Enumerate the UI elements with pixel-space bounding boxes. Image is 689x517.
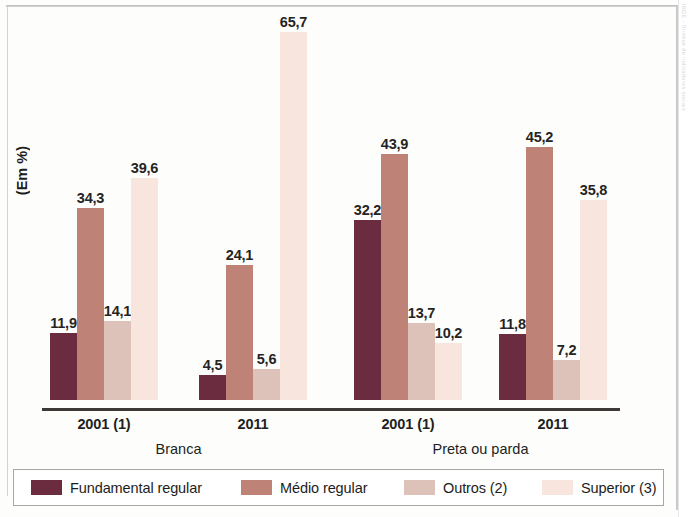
x-category-label: Branca <box>156 441 202 457</box>
bar-value-label: 24,1 <box>226 247 253 263</box>
x-tick-label: 2001 (1) <box>381 416 434 432</box>
bar[interactable]: 39,6 <box>131 178 158 400</box>
bar-slot: 65,7 <box>280 8 307 400</box>
scan-margin-artifact: IBGE - Síntese de indicadores sociais <box>679 4 688 116</box>
bar-value-label: 34,3 <box>77 190 104 206</box>
x-axis-line <box>42 408 620 411</box>
bar-slot: 35,8 <box>580 8 607 400</box>
x-tick-label: 2011 <box>237 416 268 432</box>
bar-slot: 34,3 <box>77 8 104 400</box>
legend-label: Fundamental regular <box>70 480 202 496</box>
legend-item[interactable]: Superior (3) <box>542 480 656 496</box>
x-tick-label: 2011 <box>537 416 568 432</box>
bar-value-label: 14,1 <box>104 303 131 319</box>
bar[interactable]: 43,9 <box>381 154 408 400</box>
bar-group: 4,524,15,665,7 <box>199 8 307 400</box>
bar-value-label: 45,2 <box>526 129 553 145</box>
bar-value-label: 13,7 <box>408 305 435 321</box>
x-axis-labels: 2001 (1)20112001 (1)2011BrancaPreta ou p… <box>0 416 676 476</box>
x-tick-label: 2001 (1) <box>77 416 130 432</box>
bar[interactable]: 5,6 <box>253 369 280 400</box>
bar[interactable]: 10,2 <box>435 343 462 400</box>
bar-slot: 5,6 <box>253 8 280 400</box>
bar[interactable]: 45,2 <box>526 147 553 400</box>
bar-value-label: 32,2 <box>354 202 381 218</box>
plot-area: (Em %) 11,934,314,139,64,524,15,665,732,… <box>0 8 676 408</box>
bar-slot: 13,7 <box>408 8 435 400</box>
legend-label: Superior (3) <box>581 480 656 496</box>
bar[interactable]: 32,2 <box>354 220 381 400</box>
bar[interactable]: 14,1 <box>104 321 131 400</box>
bar-slot: 7,2 <box>553 8 580 400</box>
bar-value-label: 5,6 <box>257 351 277 367</box>
legend-item[interactable]: Fundamental regular <box>31 480 202 496</box>
x-category-label: Preta ou parda <box>433 441 529 457</box>
bar[interactable]: 65,7 <box>280 32 307 400</box>
y-axis-title: (Em %) <box>14 146 38 195</box>
legend-swatch <box>404 480 435 495</box>
bar-slot: 4,5 <box>199 8 226 400</box>
bar-group: 32,243,913,710,2 <box>354 8 462 400</box>
bar-slot: 32,2 <box>354 8 381 400</box>
page-frame-top <box>6 5 678 7</box>
bar-slot: 45,2 <box>526 8 553 400</box>
bar-value-label: 39,6 <box>131 160 158 176</box>
bar[interactable]: 11,9 <box>50 333 77 400</box>
bar-group: 11,934,314,139,6 <box>50 8 158 400</box>
bar-groups-container: 11,934,314,139,64,524,15,665,732,243,913… <box>44 8 622 400</box>
bar[interactable]: 11,8 <box>499 334 526 400</box>
bar-value-label: 11,8 <box>499 316 526 332</box>
bar-value-label: 10,2 <box>435 325 462 341</box>
bar[interactable]: 4,5 <box>199 375 226 400</box>
bar-value-label: 4,5 <box>203 357 223 373</box>
bar[interactable]: 24,1 <box>226 265 253 400</box>
bar-slot: 11,8 <box>499 8 526 400</box>
bar[interactable]: 13,7 <box>408 323 435 400</box>
bar-slot: 11,9 <box>50 8 77 400</box>
legend-swatch <box>31 480 62 495</box>
bar-value-label: 11,9 <box>50 315 77 331</box>
bar[interactable]: 7,2 <box>553 360 580 400</box>
legend-swatch <box>241 480 272 495</box>
bar-group: 11,845,27,235,8 <box>499 8 607 400</box>
bar-slot: 39,6 <box>131 8 158 400</box>
bar-slot: 24,1 <box>226 8 253 400</box>
bar-value-label: 65,7 <box>280 14 307 30</box>
bar-slot: 14,1 <box>104 8 131 400</box>
bar-slot: 10,2 <box>435 8 462 400</box>
chart-legend: Fundamental regularMédio regularOutros (… <box>13 469 664 506</box>
bar[interactable]: 35,8 <box>580 200 607 400</box>
legend-item[interactable]: Outros (2) <box>404 480 507 496</box>
bar-value-label: 7,2 <box>557 342 577 358</box>
bar-slot: 43,9 <box>381 8 408 400</box>
legend-swatch <box>542 480 573 495</box>
legend-item[interactable]: Médio regular <box>241 480 367 496</box>
bar[interactable]: 34,3 <box>77 208 104 400</box>
chart-page: (Em %) 11,934,314,139,64,524,15,665,732,… <box>0 0 689 517</box>
legend-label: Médio regular <box>280 480 367 496</box>
bar-value-label: 43,9 <box>381 136 408 152</box>
legend-label: Outros (2) <box>443 480 507 496</box>
bar-value-label: 35,8 <box>580 182 607 198</box>
